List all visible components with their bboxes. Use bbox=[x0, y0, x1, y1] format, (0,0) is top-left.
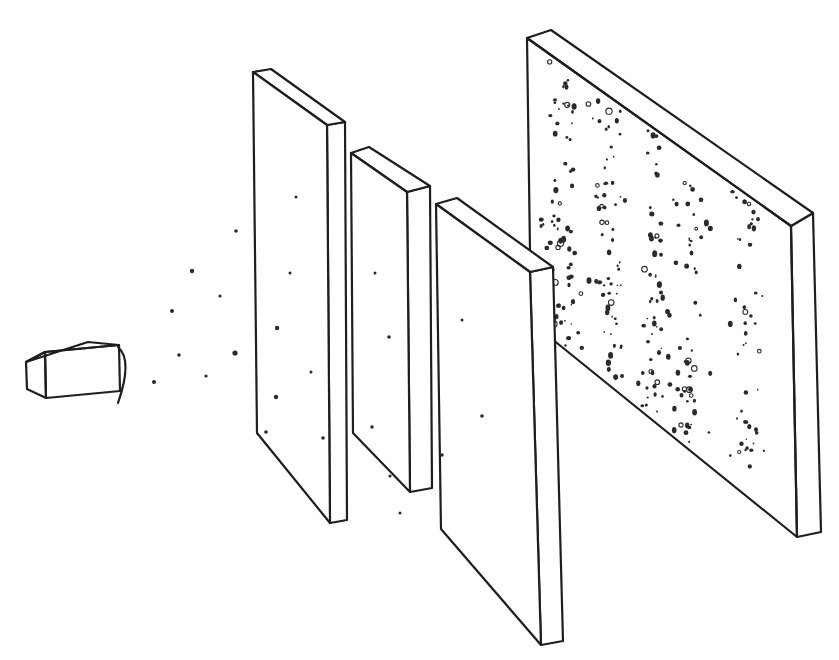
hit-dot bbox=[649, 206, 652, 209]
hit-dot bbox=[617, 285, 619, 286]
hit-dot bbox=[755, 431, 759, 435]
particle bbox=[275, 326, 279, 330]
hit-dot bbox=[734, 298, 737, 303]
hit-dot bbox=[685, 202, 690, 207]
hit-dot bbox=[617, 268, 620, 271]
hit-dot bbox=[620, 284, 622, 286]
hit-dot bbox=[615, 323, 618, 325]
hit-dot bbox=[605, 128, 608, 132]
hit-dot bbox=[551, 200, 554, 204]
hit-dot bbox=[657, 281, 662, 288]
hit-dot bbox=[742, 199, 747, 204]
hit-dot bbox=[688, 441, 690, 443]
hit-dot bbox=[690, 424, 692, 426]
particle bbox=[234, 229, 238, 233]
hit-dot bbox=[652, 384, 656, 388]
hit-dot bbox=[756, 217, 760, 221]
hit-dot bbox=[571, 122, 573, 124]
hit-dot bbox=[596, 98, 600, 104]
hit-dot bbox=[580, 346, 584, 350]
hit-dot bbox=[594, 279, 598, 284]
hit-dot bbox=[763, 450, 765, 453]
hit-dot bbox=[752, 225, 756, 231]
hit-dot bbox=[694, 267, 696, 270]
hit-dot bbox=[699, 235, 703, 239]
hit-dot bbox=[654, 236, 656, 238]
hit-dot bbox=[556, 217, 560, 222]
hit-dot bbox=[699, 314, 702, 317]
hit-dot bbox=[608, 352, 613, 359]
particle bbox=[274, 395, 278, 399]
hit-dot bbox=[606, 158, 608, 160]
hit-dot bbox=[617, 265, 619, 268]
hit-dot bbox=[747, 224, 751, 229]
hit-dot bbox=[553, 187, 558, 193]
hit-dot bbox=[603, 331, 605, 333]
emitter-box bbox=[26, 342, 126, 403]
hit-dot bbox=[623, 198, 627, 203]
particle bbox=[399, 512, 402, 515]
hit-dot bbox=[688, 237, 690, 239]
hit-dot bbox=[611, 238, 614, 242]
hit-dot bbox=[604, 166, 606, 169]
hit-dot bbox=[668, 382, 673, 387]
panel-2 bbox=[351, 147, 432, 492]
hit-dot bbox=[745, 342, 747, 344]
hit-dot bbox=[655, 163, 657, 165]
hit-dot bbox=[648, 273, 652, 277]
hit-dot bbox=[592, 118, 594, 120]
hit-dot bbox=[653, 316, 656, 319]
hit-dot bbox=[665, 309, 670, 314]
hit-dot bbox=[647, 129, 650, 132]
hit-dot bbox=[753, 443, 755, 445]
particle bbox=[232, 350, 237, 355]
hit-dot bbox=[604, 182, 608, 186]
hit-dot bbox=[761, 295, 763, 297]
hit-dot bbox=[661, 295, 665, 301]
particle bbox=[295, 196, 298, 199]
hit-dot bbox=[650, 297, 653, 300]
hit-dot bbox=[652, 320, 657, 326]
hit-dot bbox=[566, 336, 571, 340]
diagram-canvas bbox=[0, 0, 839, 660]
hit-dot bbox=[708, 431, 711, 433]
hit-dot bbox=[540, 224, 543, 228]
hit-dot bbox=[659, 221, 664, 225]
hit-dot bbox=[691, 349, 693, 352]
hit-dot bbox=[692, 409, 697, 416]
hit-dot bbox=[690, 240, 693, 243]
hit-dot bbox=[684, 430, 689, 435]
hit-dot bbox=[610, 333, 612, 335]
hit-dot bbox=[558, 303, 560, 306]
particle bbox=[374, 272, 377, 275]
hit-dot bbox=[611, 316, 613, 318]
hit-dot bbox=[693, 301, 697, 305]
hit-dot bbox=[569, 274, 574, 278]
hit-dot bbox=[557, 228, 559, 231]
hit-dot bbox=[572, 103, 577, 109]
hit-dot bbox=[567, 246, 571, 252]
particle bbox=[190, 269, 194, 273]
hit-dot bbox=[693, 213, 696, 216]
hit-dot bbox=[680, 393, 684, 398]
hit-dot bbox=[553, 131, 558, 137]
hit-dot bbox=[601, 293, 605, 297]
hit-dot bbox=[745, 446, 748, 450]
particle bbox=[177, 353, 181, 357]
particle bbox=[461, 319, 464, 322]
hit-dot bbox=[607, 250, 611, 256]
hit-dot bbox=[688, 244, 691, 247]
hit-dot bbox=[748, 243, 753, 247]
hit-dot bbox=[708, 371, 712, 376]
hit-dot bbox=[757, 389, 759, 391]
hit-dot bbox=[651, 132, 656, 138]
particle bbox=[204, 374, 207, 377]
hit-dot bbox=[609, 282, 612, 285]
hit-dot bbox=[647, 396, 649, 398]
hit-dot bbox=[646, 340, 650, 343]
hit-dot bbox=[607, 125, 610, 128]
hit-dot bbox=[596, 197, 599, 199]
hit-dot bbox=[655, 276, 657, 278]
emitter-top-face bbox=[26, 342, 119, 362]
hit-dot bbox=[587, 277, 592, 284]
